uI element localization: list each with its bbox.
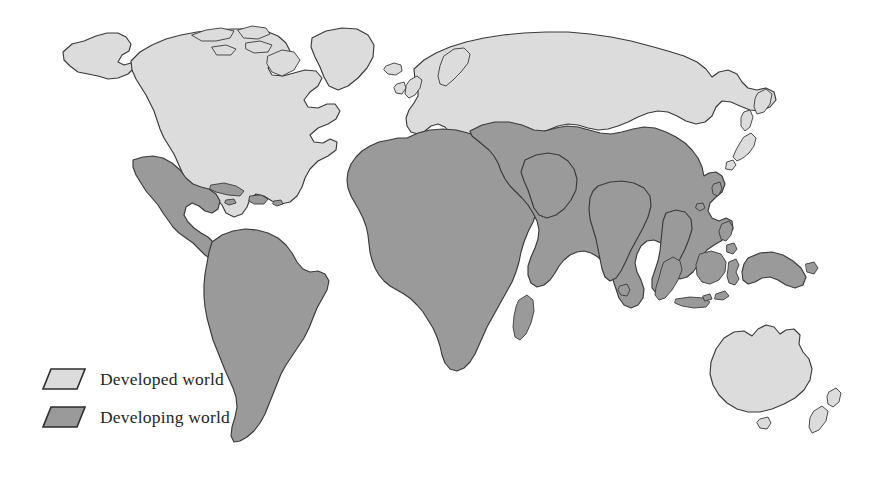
- map-legend: Developed world Developing world: [42, 360, 282, 436]
- legend-item-developed[interactable]: Developed world: [42, 360, 282, 398]
- legend-label-developing: Developing world: [100, 407, 230, 428]
- region-ireland: [394, 82, 406, 94]
- region-lesser-antilles: [273, 200, 283, 206]
- legend-item-developing[interactable]: Developing world: [42, 398, 282, 436]
- legend-label-developed: Developed world: [100, 369, 224, 390]
- region-alaska: [63, 33, 134, 79]
- region-sakhalin: [741, 110, 753, 131]
- region-new-britain: [806, 262, 818, 274]
- legend-swatch-developing: [42, 406, 86, 428]
- region-lesser-sunda: [703, 294, 712, 301]
- region-madagascar: [513, 295, 534, 340]
- region-borneo: [696, 251, 726, 284]
- region-japan-kyushu: [726, 160, 736, 170]
- region-baffin-island: [267, 50, 300, 76]
- region-sulawesi: [727, 259, 739, 285]
- region-tasmania: [757, 417, 771, 429]
- region-iceland: [384, 63, 402, 75]
- region-timor: [715, 291, 729, 300]
- region-new-zealand-south: [809, 406, 828, 433]
- region-japan: [733, 133, 756, 161]
- region-india: [589, 181, 651, 281]
- region-papua-new-guinea: [742, 252, 806, 288]
- world-map-figure: Developed world Developing world: [0, 0, 871, 482]
- region-australia: [710, 325, 812, 412]
- region-new-zealand-north: [827, 388, 841, 407]
- region-philippines-south: [727, 243, 737, 254]
- legend-swatch-developed: [42, 368, 86, 390]
